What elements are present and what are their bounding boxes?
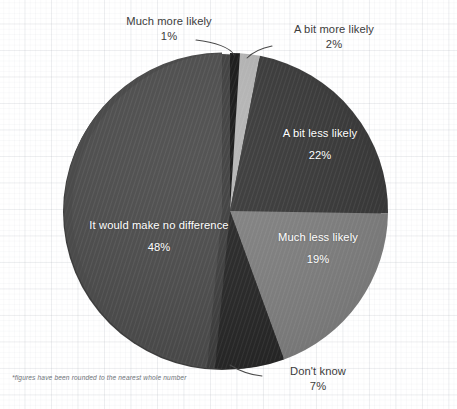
slice-label-text: A bit less likely <box>258 126 382 140</box>
callout-much-more-likely: Much more likely 1% <box>104 14 234 43</box>
callout-value-text: 7% <box>262 379 374 394</box>
callout-value-text: 1% <box>104 29 234 44</box>
slice-label-a-bit-less-likely: A bit less likely 22% <box>258 126 382 162</box>
slice-value-text: 22% <box>258 148 382 162</box>
slice-label-no-difference: It would make no difference 48% <box>74 218 244 254</box>
pie-texture-overlay <box>64 53 388 369</box>
slice-value-text: 19% <box>256 252 380 266</box>
pie-chart-svg <box>0 0 457 409</box>
callout-a-bit-more-likely: A bit more likely 2% <box>272 22 396 51</box>
callout-label-text: Don't know <box>262 364 374 379</box>
callout-label-text: A bit more likely <box>272 22 396 37</box>
slice-label-text: It would make no difference <box>74 218 244 232</box>
callout-label-text: Much more likely <box>104 14 234 29</box>
slice-value-text: 48% <box>74 240 244 254</box>
chart-footnote: *figures have been rounded to the neares… <box>12 374 187 381</box>
pie-chart: Much more likely 1% A bit more likely 2%… <box>0 0 457 409</box>
slice-label-text: Much less likely <box>256 230 380 244</box>
callout-value-text: 2% <box>272 37 396 52</box>
callout-dont-know: Don't know 7% <box>262 364 374 393</box>
slice-label-much-less-likely: Much less likely 19% <box>256 230 380 266</box>
